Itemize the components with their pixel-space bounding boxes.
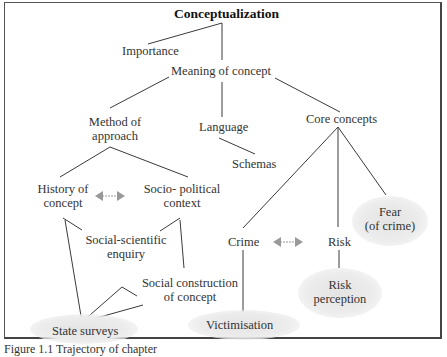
node-text: perception	[310, 292, 370, 306]
node-importance: Importance	[122, 44, 179, 58]
node-state-surveys: State surveys	[52, 324, 118, 338]
node-risk-perception: Risk perception	[310, 278, 370, 306]
figure-caption: Figure 1.1 Trajectory of chapter	[4, 342, 157, 357]
node-risk: Risk	[328, 235, 351, 249]
node-text: Risk	[310, 278, 370, 292]
node-social-scientific-enquiry: Social-scientific enquiry	[81, 233, 171, 261]
node-text: Method of	[80, 115, 150, 129]
node-meaning-of-concept: Meaning of concept	[171, 64, 271, 78]
node-text: (of crime)	[360, 219, 420, 233]
node-socio-political-context: Socio- political context	[139, 182, 225, 210]
node-text: Social construction	[137, 276, 243, 290]
node-schemas: Schemas	[232, 157, 276, 171]
node-conceptualization: Conceptualization	[174, 7, 279, 21]
node-text: Social-scientific	[81, 233, 171, 247]
node-social-construction-of-concept: Social construction of concept	[137, 276, 243, 304]
node-text: History of	[32, 182, 94, 196]
node-history-of-concept: History of concept	[32, 182, 94, 210]
node-text: Fear	[360, 205, 420, 219]
node-language: Language	[199, 120, 248, 134]
node-text: of concept	[137, 290, 243, 304]
node-method-of-approach: Method of approach	[80, 115, 150, 143]
node-text: Socio- political	[139, 182, 225, 196]
node-core-concepts: Core concepts	[306, 112, 377, 126]
bidirectional-arrow-icon	[273, 237, 303, 247]
node-text: concept	[32, 196, 94, 210]
node-victimisation: Victimisation	[206, 318, 273, 332]
node-text: approach	[80, 129, 150, 143]
bidirectional-arrow-icon	[95, 191, 125, 201]
node-fear-of-crime: Fear (of crime)	[360, 205, 420, 233]
node-text: context	[139, 196, 225, 210]
node-text: enquiry	[81, 247, 171, 261]
node-crime: Crime	[228, 235, 259, 249]
